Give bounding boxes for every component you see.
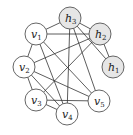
node-v2: v2: [13, 56, 35, 78]
node-h3: h3: [59, 7, 81, 29]
node-h2: h2: [89, 23, 111, 45]
node-v4: v4: [56, 103, 78, 125]
node-v1: v1: [25, 23, 47, 45]
node-v5: v5: [88, 90, 110, 112]
graph-diagram: v1v2v3v4v5h1h2h3: [0, 0, 133, 135]
node-v3: v3: [25, 89, 47, 111]
node-h1: h1: [102, 56, 124, 78]
